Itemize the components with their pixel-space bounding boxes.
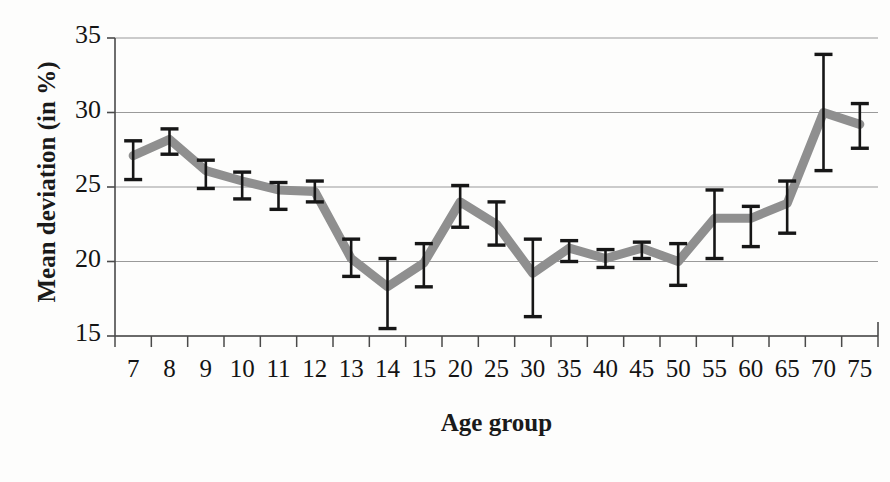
- y-axis-ticks: [107, 38, 115, 336]
- chart-figure: Mean deviation (in %) 1520253035 7891011…: [0, 0, 890, 482]
- x-axis-label: Age group: [115, 409, 878, 437]
- error-bars: [124, 54, 869, 328]
- x-axis-ticks: [115, 336, 878, 347]
- x-tick-label: 75: [835, 355, 885, 383]
- y-tick-label: 35: [41, 20, 101, 50]
- y-tick-label: 15: [41, 318, 101, 348]
- y-tick-label: 20: [41, 244, 101, 274]
- gridlines: [115, 38, 878, 336]
- y-tick-label: 30: [41, 95, 101, 125]
- y-tick-label: 25: [41, 169, 101, 199]
